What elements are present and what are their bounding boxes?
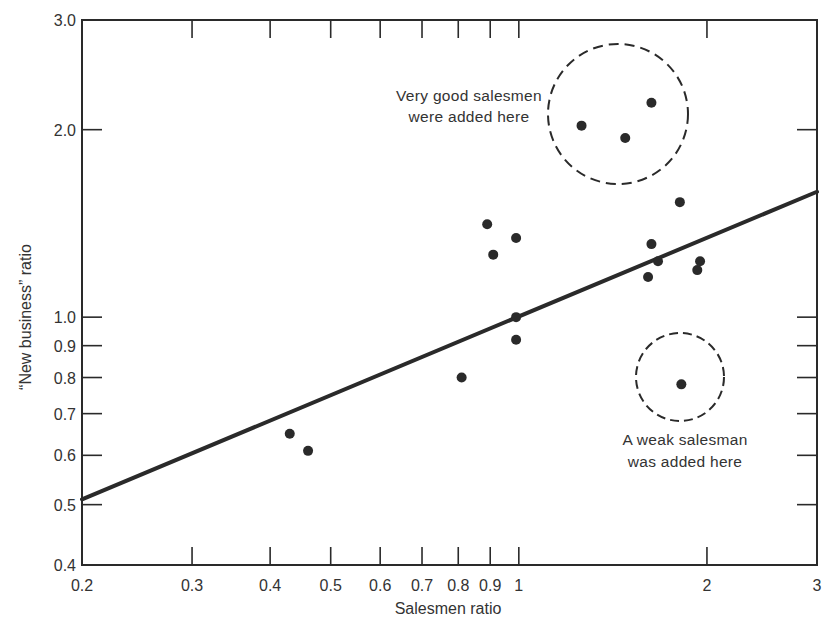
y-tick-label: 2.0 bbox=[54, 122, 76, 139]
x-tick-label: 3 bbox=[813, 577, 822, 594]
data-point bbox=[457, 373, 467, 383]
annotation-circles bbox=[548, 44, 724, 421]
y-tick-label: 0.9 bbox=[54, 338, 76, 355]
x-tick-label: 0.7 bbox=[411, 577, 433, 594]
data-point bbox=[675, 197, 685, 207]
data-point bbox=[620, 133, 630, 143]
data-point bbox=[511, 335, 521, 345]
data-point bbox=[511, 233, 521, 243]
annotation-weak-line1: A weak salesman bbox=[622, 431, 747, 448]
data-point bbox=[285, 429, 295, 439]
data-point bbox=[695, 256, 705, 266]
x-tick-label: 2 bbox=[702, 577, 711, 594]
data-points bbox=[285, 98, 705, 456]
data-point bbox=[653, 256, 663, 266]
data-point bbox=[511, 312, 521, 322]
data-point bbox=[646, 239, 656, 249]
y-tick-label: 1.0 bbox=[54, 309, 76, 326]
x-tick-label: 0.3 bbox=[181, 577, 203, 594]
annotation-good-line1: Very good salesmen bbox=[396, 87, 542, 104]
y-tick-label: 3.0 bbox=[54, 12, 76, 29]
data-point bbox=[482, 219, 492, 229]
weak-salesman-circle bbox=[636, 333, 724, 421]
y-tick-label: 0.4 bbox=[54, 557, 76, 574]
data-point bbox=[676, 379, 686, 389]
y-tick-label: 0.5 bbox=[54, 497, 76, 514]
y-tick-label: 0.6 bbox=[54, 447, 76, 464]
x-tick-label: 0.4 bbox=[259, 577, 281, 594]
good-salesmen-circle bbox=[548, 44, 688, 184]
data-point bbox=[646, 98, 656, 108]
x-tick-label: 0.8 bbox=[447, 577, 469, 594]
x-tick-label: 0.6 bbox=[369, 577, 391, 594]
data-point bbox=[488, 250, 498, 260]
x-tick-label: 0.9 bbox=[479, 577, 501, 594]
y-tick-label: 0.8 bbox=[54, 370, 76, 387]
data-point bbox=[692, 265, 702, 275]
scatter-chart: 0.20.30.40.50.60.70.80.91230.40.50.60.70… bbox=[0, 0, 837, 633]
y-axis-title: “New business” ratio bbox=[17, 244, 34, 390]
x-tick-label: 1 bbox=[514, 577, 523, 594]
x-tick-label: 0.5 bbox=[320, 577, 342, 594]
annotation-weak-line2: was added here bbox=[627, 453, 743, 470]
y-tick-label: 0.7 bbox=[54, 406, 76, 423]
data-point bbox=[577, 121, 587, 131]
data-point bbox=[303, 446, 313, 456]
x-axis-title: Salesmen ratio bbox=[395, 600, 502, 617]
data-point bbox=[643, 272, 653, 282]
x-tick-label: 0.2 bbox=[71, 577, 93, 594]
annotation-good-line2: were added here bbox=[408, 108, 530, 125]
